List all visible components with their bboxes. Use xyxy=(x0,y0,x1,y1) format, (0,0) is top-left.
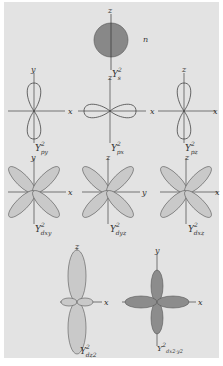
orbital-diagram: z n Y2s y x Y2py z x Y2px z x Y2pz xyxy=(0,0,223,366)
svg-text:Y2dxy: Y2dxy xyxy=(35,221,52,237)
svg-text:x: x xyxy=(198,298,203,307)
svg-text:Y2s: Y2s xyxy=(112,66,122,81)
svg-text:z: z xyxy=(181,65,187,74)
orbital-dx2-y2: y x Y2dx2-y2 xyxy=(122,246,203,355)
side-label-n: n xyxy=(143,35,148,44)
svg-text:Y2py: Y2py xyxy=(35,140,49,156)
orbital-dz2: z x Y2dz2 xyxy=(60,242,109,358)
svg-text:x: x xyxy=(68,188,73,197)
svg-text:Y2dz2: Y2dz2 xyxy=(80,343,97,358)
svg-text:Y2dxz: Y2dxz xyxy=(188,221,205,236)
orbital-pz: z x Y2pz xyxy=(158,65,218,156)
svg-text:Y2dyz: Y2dyz xyxy=(110,221,127,237)
svg-text:y: y xyxy=(30,65,36,74)
svg-text:z: z xyxy=(107,73,113,82)
svg-text:Y2dx2-y2: Y2dx2-y2 xyxy=(157,341,183,355)
svg-text:y: y xyxy=(30,153,36,162)
orbital-dxz: z x Y2dxz xyxy=(157,153,220,236)
axis-label-z: z xyxy=(107,6,113,15)
svg-text:x: x xyxy=(213,107,218,116)
svg-text:x: x xyxy=(150,107,155,116)
svg-text:z: z xyxy=(74,242,80,251)
orbital-dxy: y x Y2dxy xyxy=(5,153,73,237)
svg-text:x: x xyxy=(68,107,73,116)
svg-text:x: x xyxy=(104,298,109,307)
orbital-py: y x Y2py xyxy=(8,65,73,156)
svg-text:Y2px: Y2px xyxy=(111,140,125,156)
svg-text:z: z xyxy=(105,153,111,162)
svg-text:z: z xyxy=(184,153,190,162)
orbital-s: z n Y2s xyxy=(94,6,148,81)
orbital-dyz: z y Y2dyz xyxy=(79,153,147,237)
orbital-px: z x Y2px xyxy=(78,73,155,156)
svg-text:y: y xyxy=(141,188,147,197)
svg-text:y: y xyxy=(154,246,160,255)
svg-text:x: x xyxy=(215,188,220,197)
